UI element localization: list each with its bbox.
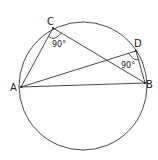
angle-label-c: 90° bbox=[52, 40, 66, 49]
segment-ad bbox=[21, 51, 136, 87]
label-d: D bbox=[134, 38, 142, 49]
angle-label-d: 90° bbox=[121, 61, 135, 70]
point-a bbox=[20, 86, 22, 88]
point-d bbox=[135, 50, 137, 52]
geometry-diagram: A B C D 90° 90° bbox=[0, 0, 158, 160]
label-c: C bbox=[47, 16, 54, 27]
label-b: B bbox=[146, 79, 153, 90]
segment-cb bbox=[53, 28, 145, 83]
segment-ab bbox=[21, 83, 145, 87]
point-c bbox=[52, 27, 54, 29]
label-a: A bbox=[10, 82, 17, 93]
angle-arc-c bbox=[49, 33, 62, 39]
